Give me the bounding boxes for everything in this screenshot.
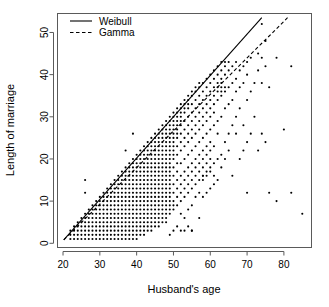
data-point [158,166,160,168]
data-point [172,192,174,194]
data-point [169,175,171,177]
data-point [117,209,119,211]
data-point [150,183,152,185]
data-point [261,82,263,84]
data-point [102,217,104,219]
data-point [161,166,163,168]
data-point [84,192,86,194]
data-point [132,200,134,202]
data-point [165,141,167,143]
data-point [165,200,167,202]
data-point [224,107,226,109]
data-point [264,65,266,67]
data-point [128,209,130,211]
data-point [80,238,82,240]
scatter-plot-figure: 20304050607080 01020304050 Husband's age… [0,0,329,307]
data-point [117,217,119,219]
data-point [158,158,160,160]
data-point [125,230,127,232]
data-point [176,196,178,198]
data-point [128,238,130,240]
data-point [206,103,208,105]
data-point [158,175,160,177]
data-point [220,78,222,80]
data-point [194,166,196,168]
data-point [106,234,108,236]
data-point [154,204,156,206]
data-point [183,171,185,173]
data-point [132,166,134,168]
data-point [172,230,174,232]
data-point [261,133,263,135]
data-point [143,171,145,173]
data-point [154,166,156,168]
data-point [158,196,160,198]
data-point [125,238,127,240]
data-point [228,103,230,105]
data-point [132,217,134,219]
data-point [250,57,252,59]
data-point [158,187,160,189]
x-tick-label: 30 [94,259,106,270]
data-point [213,86,215,88]
data-point [206,86,208,88]
data-point [147,158,149,160]
data-point [202,116,204,118]
data-point [198,112,200,114]
data-point [176,154,178,156]
data-point [121,238,123,240]
data-point [77,238,79,240]
data-point [150,196,152,198]
data-point [154,187,156,189]
data-point [99,196,101,198]
data-point [150,162,152,164]
data-point [147,179,149,181]
data-point [183,107,185,109]
data-point [136,234,138,236]
data-point [172,154,174,156]
data-point [187,183,189,185]
data-point [180,200,182,202]
data-point [180,149,182,151]
data-point [183,230,185,232]
data-point [102,225,104,227]
data-point [128,196,130,198]
data-point [154,183,156,185]
data-point [125,166,127,168]
data-point [114,209,116,211]
data-point [117,175,119,177]
data-point [158,154,160,156]
data-point [220,69,222,71]
data-point [253,116,255,118]
data-point [154,145,156,147]
data-point [172,166,174,168]
data-point [206,95,208,97]
data-point [165,217,167,219]
data-point [150,217,152,219]
data-point [128,179,130,181]
data-point [209,99,211,101]
x-tick-label: 60 [205,259,217,270]
data-point [84,230,86,232]
data-point [154,133,156,135]
data-point [165,196,167,198]
data-point [125,221,127,223]
data-point [209,187,211,189]
data-point [191,187,193,189]
data-point [106,213,108,215]
data-point [158,128,160,130]
data-point [136,175,138,177]
data-point [99,217,101,219]
data-point [114,200,116,202]
data-point [183,99,185,101]
data-point [110,225,112,227]
data-point [176,137,178,139]
data-point [172,175,174,177]
data-point [209,82,211,84]
data-point [147,141,149,143]
data-point [187,133,189,135]
data-point [125,183,127,185]
data-point [290,192,292,194]
data-point [102,221,104,223]
data-point [136,221,138,223]
